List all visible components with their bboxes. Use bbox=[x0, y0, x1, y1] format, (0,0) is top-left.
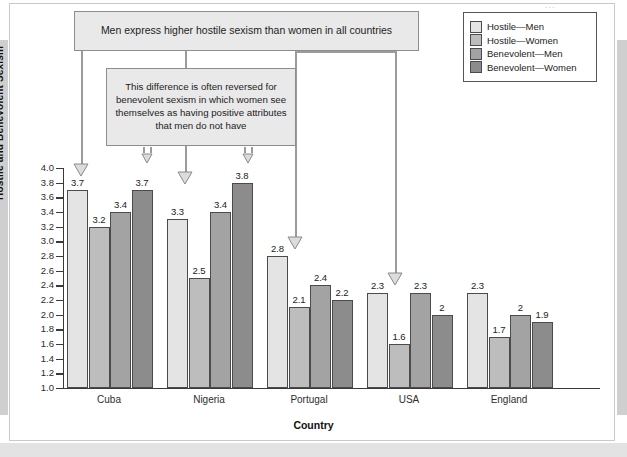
y-tick-label: 2.2 bbox=[26, 294, 54, 305]
bar bbox=[432, 315, 453, 388]
chart-legend: Hostile—Men Hostile—Women Benevolent—Men… bbox=[463, 12, 597, 82]
plot-area: 3.73.23.43.73.32.53.43.82.82.12.42.22.31… bbox=[63, 168, 598, 388]
bar-value-label: 2.8 bbox=[263, 243, 292, 254]
bar bbox=[167, 219, 188, 388]
y-tick bbox=[56, 212, 63, 213]
bar-value-label: 3.7 bbox=[128, 177, 157, 188]
y-tick bbox=[56, 197, 63, 198]
bar-value-label: 2 bbox=[428, 302, 457, 313]
legend-item-benevolent-men: Benevolent—Men bbox=[470, 48, 589, 60]
callout-benevolent: This difference is often reversed for be… bbox=[106, 68, 296, 146]
y-tick-label: 2.4 bbox=[26, 279, 54, 290]
bar bbox=[110, 212, 131, 388]
bar bbox=[267, 256, 288, 388]
y-tick-label: 1.8 bbox=[26, 323, 54, 334]
legend-swatch-benevolent-men bbox=[470, 48, 482, 60]
y-tick-label: 2.6 bbox=[26, 265, 54, 276]
y-tick-label: 1.6 bbox=[26, 338, 54, 349]
arrow-down-cuba-benevolent-women bbox=[141, 153, 153, 164]
y-axis-title: Hostile and Benevolent Sexism bbox=[0, 46, 5, 200]
bar-value-label: 2.3 bbox=[463, 280, 492, 291]
y-tick bbox=[56, 285, 63, 286]
x-axis-title: Country bbox=[0, 419, 627, 431]
bar-value-label: 3.3 bbox=[163, 206, 192, 217]
y-tick-label: 1.2 bbox=[26, 367, 54, 378]
legend-label-hostile-women: Hostile—Women bbox=[487, 35, 558, 46]
bar bbox=[332, 300, 353, 388]
y-tick-label: 4.0 bbox=[26, 162, 54, 173]
y-tick-label: 1.0 bbox=[26, 382, 54, 393]
y-tick bbox=[56, 344, 63, 345]
y-tick-label: 3.0 bbox=[26, 235, 54, 246]
legend-swatch-benevolent-women bbox=[470, 61, 482, 73]
y-tick bbox=[56, 241, 63, 242]
bar-value-label: 2.4 bbox=[306, 272, 335, 283]
connector-cuba-hostile-men bbox=[81, 51, 83, 164]
y-tick-label: 3.2 bbox=[26, 221, 54, 232]
legend-item-hostile-men: Hostile—Men bbox=[470, 21, 589, 33]
bar bbox=[489, 337, 510, 388]
legend-swatch-hostile-women bbox=[470, 34, 482, 46]
y-tick-label: 3.4 bbox=[26, 206, 54, 217]
y-tick bbox=[56, 183, 63, 184]
y-tick-label: 3.8 bbox=[26, 177, 54, 188]
bar bbox=[289, 307, 310, 388]
y-tick-label: 2.0 bbox=[26, 309, 54, 320]
figure-page: ... Men express higher hostile sexism th… bbox=[0, 0, 627, 457]
y-tick bbox=[56, 315, 63, 316]
bar-value-label: 2.2 bbox=[328, 287, 357, 298]
arrow-down-nigeria-benevolent-women bbox=[242, 153, 254, 164]
x-group-label: USA bbox=[357, 394, 461, 405]
bar bbox=[389, 344, 410, 388]
bar bbox=[132, 190, 153, 388]
legend-item-benevolent-women: Benevolent—Women bbox=[470, 61, 589, 73]
y-tick-label: 2.8 bbox=[26, 250, 54, 261]
scan-artifact: ... bbox=[545, 0, 556, 10]
y-tick bbox=[56, 227, 63, 228]
legend-label-hostile-men: Hostile—Men bbox=[487, 21, 544, 32]
bar-value-label: 2.3 bbox=[406, 280, 435, 291]
page-edge-right bbox=[617, 40, 627, 415]
y-tick-label: 1.4 bbox=[26, 353, 54, 364]
bar bbox=[232, 183, 253, 388]
bar bbox=[89, 227, 110, 388]
connector-top-rail bbox=[295, 51, 396, 53]
x-group-label: England bbox=[457, 394, 561, 405]
bar-value-label: 3.8 bbox=[228, 170, 257, 181]
legend-label-benevolent-women: Benevolent—Women bbox=[487, 62, 577, 73]
x-axis-line bbox=[63, 388, 600, 389]
y-tick-label: 3.6 bbox=[26, 191, 54, 202]
x-group-label: Nigeria bbox=[157, 394, 261, 405]
bar bbox=[467, 293, 488, 388]
page-edge-bottom bbox=[0, 443, 627, 457]
y-tick bbox=[56, 300, 63, 301]
y-tick bbox=[56, 271, 63, 272]
bar bbox=[310, 285, 331, 388]
y-tick bbox=[56, 329, 63, 330]
legend-swatch-hostile-men bbox=[470, 21, 482, 33]
bar bbox=[510, 315, 531, 388]
bar-value-label: 3.7 bbox=[63, 177, 92, 188]
y-tick bbox=[56, 388, 63, 389]
bar bbox=[210, 212, 231, 388]
bar bbox=[532, 322, 553, 388]
y-tick bbox=[56, 359, 63, 360]
x-group-label: Portugal bbox=[257, 394, 361, 405]
x-group-label: Cuba bbox=[57, 394, 161, 405]
bar bbox=[189, 278, 210, 388]
y-tick bbox=[56, 256, 63, 257]
bar-value-label: 2.3 bbox=[363, 280, 392, 291]
y-tick bbox=[56, 373, 63, 374]
legend-label-benevolent-men: Benevolent—Men bbox=[487, 48, 563, 59]
legend-item-hostile-women: Hostile—Women bbox=[470, 34, 589, 46]
bar-value-label: 1.9 bbox=[528, 309, 557, 320]
y-tick bbox=[56, 168, 63, 169]
callout-hostile: Men express higher hostile sexism than w… bbox=[74, 11, 419, 51]
